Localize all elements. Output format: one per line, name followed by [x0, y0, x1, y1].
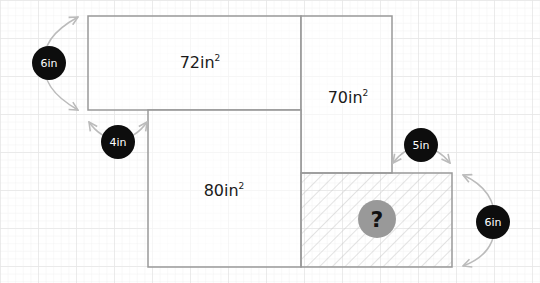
dimension-badge-right-6: 6in — [476, 205, 510, 239]
dimension-label: 5in — [412, 139, 429, 152]
area-label-right: 70in2 — [328, 88, 369, 107]
question-badge: ? — [358, 200, 396, 238]
dimension-label: 6in — [40, 57, 57, 70]
diagram-canvas: 72in2 70in2 80in2 ? 6in 4in 5in 6in — [0, 0, 540, 283]
dimension-label: 6in — [484, 216, 501, 229]
area-puzzle-diagram: 72in2 70in2 80in2 ? 6in 4in 5in 6in — [0, 0, 540, 283]
dimension-label: 4in — [109, 136, 126, 149]
area-label-bottom: 80in2 — [204, 181, 245, 200]
area-label-top: 72in2 — [180, 53, 221, 72]
dimension-badge-gap-4: 4in — [101, 125, 135, 159]
dimension-badge-left-6: 6in — [32, 46, 66, 80]
question-mark-icon: ? — [371, 207, 384, 232]
dimension-badge-gap-5: 5in — [404, 128, 438, 162]
